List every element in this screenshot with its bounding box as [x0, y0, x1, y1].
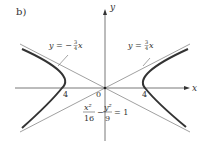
asymptote-left-label: y = − 3 4 x	[48, 39, 83, 51]
hyperbola-equation: x² 16 − y² 9 = 1	[83, 103, 128, 123]
origin-label: 0	[96, 90, 101, 99]
x-axis-label: x	[192, 83, 197, 93]
svg-text:y²: y²	[103, 103, 112, 112]
leader-line-left	[58, 55, 68, 66]
svg-text:4: 4	[74, 45, 77, 51]
panel-label: b)	[16, 6, 26, 17]
y-axis-label: y	[109, 2, 116, 12]
hyperbola-diagram: b) y x 0 4 4 y = − 3 4 x y = 3 4 x x² 16…	[0, 0, 210, 141]
svg-text:4: 4	[145, 45, 148, 51]
svg-text:−: −	[97, 108, 104, 117]
asymptote-right-label: y = 3 4 x	[127, 39, 154, 51]
svg-text:y = −: y = −	[48, 41, 72, 50]
svg-text:16: 16	[84, 114, 94, 123]
vertex-left-label: 4	[63, 90, 68, 99]
svg-text:9: 9	[105, 114, 110, 123]
svg-text:x: x	[78, 41, 83, 50]
origin-dot	[104, 87, 107, 90]
svg-text:x²: x²	[84, 103, 92, 112]
hyperbola-left-branch	[22, 49, 65, 128]
svg-text:x: x	[149, 41, 154, 50]
y-axis-arrow-icon	[103, 9, 107, 15]
x-axis-arrow-icon	[184, 86, 190, 90]
vertex-right-label: 4	[142, 90, 147, 99]
svg-text:y =: y =	[127, 41, 142, 50]
svg-text:= 1: = 1	[114, 108, 128, 117]
